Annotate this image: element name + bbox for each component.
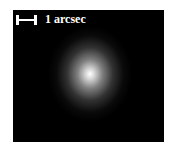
diffuse-source-glow — [13, 10, 164, 142]
scale-bar-icon — [16, 15, 37, 25]
scale-bar-label: 1 arcsec — [45, 12, 86, 27]
astronomical-image-panel: 1 arcsec — [13, 10, 164, 142]
